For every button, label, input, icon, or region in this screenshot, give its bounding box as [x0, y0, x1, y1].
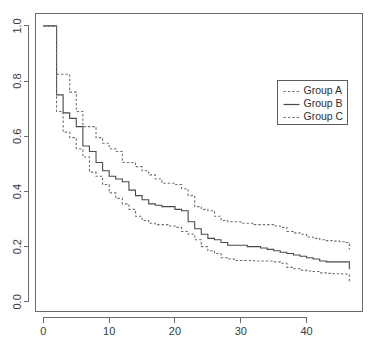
survival-chart: 0102030400.00.20.40.60.81.0Group AGroup … [0, 0, 377, 351]
y-tick-label: 0.6 [11, 129, 23, 144]
y-tick-label: 0.4 [11, 184, 23, 199]
chart-canvas: 0102030400.00.20.40.60.81.0Group AGroup … [0, 0, 377, 351]
plot-frame [36, 14, 363, 312]
series-curve-group-c [43, 26, 349, 281]
x-tick-label: 10 [103, 325, 115, 337]
series-curve-group-a [43, 26, 349, 250]
x-tick-label: 20 [169, 325, 181, 337]
y-tick-label: 1.0 [11, 18, 23, 33]
x-tick-label: 40 [300, 325, 312, 337]
legend-label-group-a: Group A [304, 84, 343, 96]
x-tick-label: 0 [40, 325, 46, 337]
y-tick-label: 0.0 [11, 294, 23, 309]
x-tick-label: 30 [235, 325, 247, 337]
y-tick-label: 0.8 [11, 73, 23, 88]
y-tick-label: 0.2 [11, 239, 23, 254]
legend-label-group-b: Group B [304, 97, 343, 109]
legend-label-group-c: Group C [304, 110, 344, 122]
series-curve-group-b [43, 26, 349, 269]
